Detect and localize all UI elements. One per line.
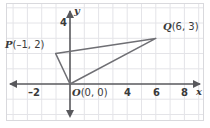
x-tick-label-neg2: –2	[28, 88, 40, 98]
y-tick-label-4: 4	[60, 18, 67, 28]
x-axis-label: x	[196, 87, 202, 97]
point-label-q-coords: (6, 3)	[172, 21, 199, 32]
point-label-p-letter: P	[5, 39, 13, 50]
point-label-q-letter: Q	[163, 21, 172, 32]
point-label-o-coords: (0, 0)	[81, 87, 108, 98]
point-label-p: P(–1, 2)	[5, 40, 44, 50]
coordinate-plane-figure: y x 4 –2 4 6 8 P(–1, 2) Q(6, 3) O(0, 0)	[0, 0, 210, 128]
x-tick-label-6: 6	[153, 88, 160, 98]
point-label-p-coords: (–1, 2)	[13, 39, 45, 50]
point-label-o: O(0, 0)	[72, 88, 108, 98]
x-tick-label-8: 8	[181, 88, 188, 98]
x-tick-label-4: 4	[124, 88, 131, 98]
point-label-q: Q(6, 3)	[163, 22, 199, 32]
y-axis-label: y	[74, 6, 80, 16]
point-label-o-letter: O	[72, 87, 81, 98]
coordinate-plane-svg	[0, 0, 210, 128]
